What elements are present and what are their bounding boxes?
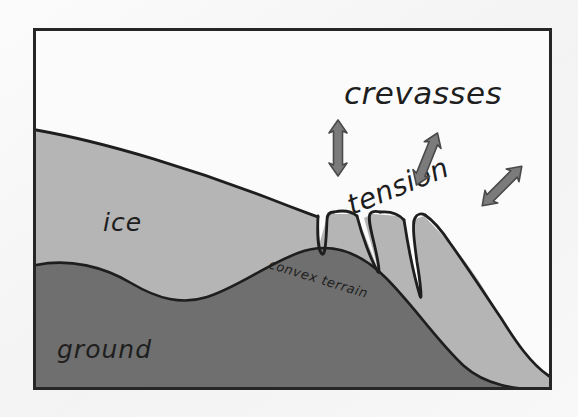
crevasse-diagram: ice ground convex terrain tension crevas… (0, 0, 578, 417)
figure-root: ice ground convex terrain tension crevas… (0, 0, 578, 417)
label-ground: ground (57, 335, 152, 364)
annotation-crevasses: crevasses (344, 75, 502, 111)
label-ice: ice (103, 208, 142, 237)
